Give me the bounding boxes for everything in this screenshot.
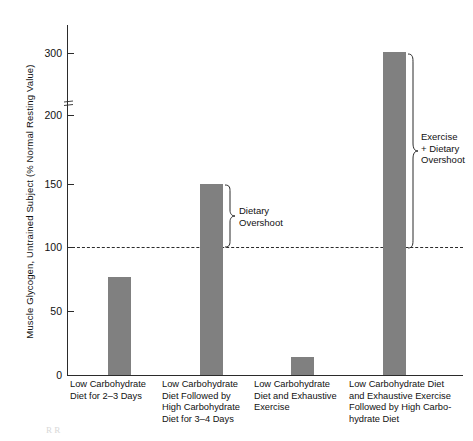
exercise-dietary-overshoot-label: Exercise + Dietary Overshoot [421,131,465,166]
bar-low-carb-exhaustive-exercise [291,357,314,375]
bar-low-carb-exercise-then-high-carb [383,52,406,375]
dietary-overshoot-bracket [224,184,236,248]
y-tick-label-300: 300 [44,47,62,59]
y-tick-label-0: 0 [56,369,62,381]
y-tick-label-200: 200 [44,109,62,121]
y-axis-title: Muscle Glycogen, Untrained Subject (% No… [24,37,35,367]
category-label-3: Low Carbohydrate Diet and Exhaustive Exe… [254,379,349,414]
exercise-dietary-overshoot-bracket [407,53,419,249]
scan-artifact: ᴿᴿ [46,424,62,441]
bar-chart-figure: Muscle Glycogen, Untrained Subject (% No… [0,0,473,441]
category-label-4: Low Carbohydrate Diet and Exhaustive Exe… [349,379,465,425]
bar-low-carb-then-high-carb [200,184,223,375]
category-label-2: Low Carbohydrate Diet Followed by High C… [162,379,254,425]
bar-low-carb-2-3-days [108,277,131,375]
plot-area: 300 200 150 100 50 0 [67,25,463,375]
x-axis-line [67,375,463,376]
y-tick-label-100: 100 [44,241,62,253]
x-axis-category-labels: Low Carbohydrate Diet for 2–3 Days Low C… [67,379,467,437]
y-axis-line [67,25,68,375]
axis-break-icon [64,93,73,100]
category-label-1: Low Carbohydrate Diet for 2–3 Days [70,379,162,402]
y-tick-label-150: 150 [44,178,62,190]
dietary-overshoot-label: Dietary Overshoot [239,205,283,228]
y-tick-label-50: 50 [50,305,62,317]
